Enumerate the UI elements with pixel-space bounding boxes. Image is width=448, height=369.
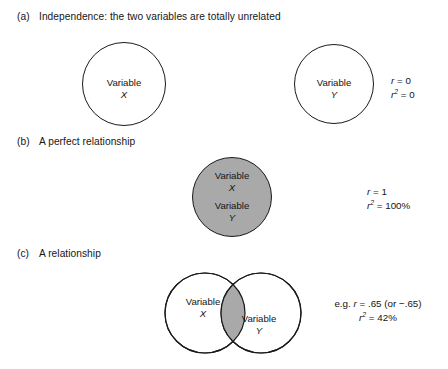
section-b-stat-r2: r2 = 100%: [367, 199, 410, 213]
section-a-stat-r2-value: = 0: [401, 89, 415, 100]
section-c-label-x: Variable X: [173, 296, 233, 319]
figure-canvas: (a)Independence: the two variables are t…: [0, 0, 448, 369]
section-b-symbol-y: Y: [202, 212, 262, 224]
section-b-label-y: Variable Y: [202, 200, 262, 223]
section-a-stat-r-symbol: r: [391, 75, 394, 86]
section-a-stat-r2-exponent: 2: [394, 88, 398, 95]
section-a-stat-r-value: = 0: [397, 75, 411, 86]
section-b-letter: (b): [17, 135, 39, 148]
section-a-stat-r2: r2 = 0: [391, 88, 415, 102]
section-c-stat-r: e.g. r = .65 (or −.65): [318, 297, 438, 311]
section-c-stats: e.g. r = .65 (or −.65) r2 = 42%: [318, 297, 438, 325]
section-c-label-y: Variable Y: [229, 313, 289, 336]
section-b-stat-r-value: = 1: [373, 186, 387, 197]
section-c-stat-r-value: = .65 (or −.65): [359, 298, 421, 309]
section-b-symbol-x: X: [202, 182, 262, 194]
section-c-label-x-text: Variable: [186, 296, 221, 307]
section-a-letter: (a): [17, 10, 39, 23]
section-b-heading-text: A perfect relationship: [39, 136, 135, 147]
section-a-stats: r = 0 r2 = 0: [391, 74, 415, 102]
section-b-label-y-text: Variable: [215, 200, 250, 211]
section-b-heading: (b)A perfect relationship: [17, 135, 135, 148]
section-a-label-y-text: Variable: [317, 77, 352, 88]
section-a-label-y: Variable Y: [304, 77, 364, 100]
section-a-heading: (a)Independence: the two variables are t…: [17, 10, 281, 23]
section-c-heading-text: A relationship: [39, 248, 101, 259]
section-c-stat-r-symbol: r: [353, 298, 356, 309]
section-a-label-x: Variable X: [94, 77, 154, 100]
section-b-circle-xy: [192, 157, 272, 237]
section-b-stat-r: r = 1: [367, 185, 410, 199]
section-b-stats: r = 1 r2 = 100%: [367, 185, 410, 213]
section-a-stat-r: r = 0: [391, 74, 415, 88]
section-b-label-x: Variable X: [202, 170, 262, 193]
section-c-stat-r2-value: = 42%: [369, 312, 397, 323]
section-c-stat-r2: r2 = 42%: [318, 311, 438, 325]
section-c-label-y-text: Variable: [242, 313, 277, 324]
section-b-label-x-text: Variable: [215, 170, 250, 181]
section-c-stat-r2-exponent: 2: [362, 311, 366, 318]
section-c-symbol-x: X: [173, 308, 233, 320]
section-a-heading-text: Independence: the two variables are tota…: [39, 11, 281, 22]
section-c-letter: (c): [17, 247, 39, 260]
section-c-stat-prefix: e.g.: [334, 298, 353, 309]
section-a-symbol-x: X: [94, 89, 154, 101]
section-c-symbol-y: Y: [229, 325, 289, 337]
section-b-stat-r2-value: = 100%: [377, 200, 411, 211]
section-b-stat-r2-exponent: 2: [370, 199, 374, 206]
section-a-label-x-text: Variable: [107, 77, 142, 88]
section-a-symbol-y: Y: [304, 89, 364, 101]
section-c-heading: (c)A relationship: [17, 247, 101, 260]
section-b-stat-r-symbol: r: [367, 186, 370, 197]
